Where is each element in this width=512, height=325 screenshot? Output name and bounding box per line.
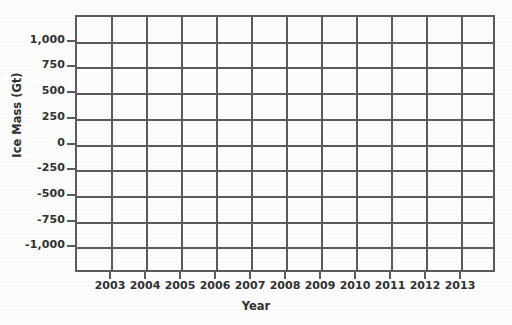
x-axis-tick <box>284 272 286 279</box>
y-axis-tick <box>67 65 75 67</box>
gridline-horizontal <box>77 196 493 198</box>
gridline-vertical <box>111 17 113 270</box>
y-axis-tick <box>67 194 75 196</box>
gridline-vertical <box>391 17 393 270</box>
x-axis-tick <box>179 272 181 279</box>
y-axis-tick <box>67 91 75 93</box>
y-axis-tick <box>67 143 75 145</box>
y-axis-tick <box>67 168 75 170</box>
y-axis-tick <box>67 245 75 247</box>
y-axis-title: Ice Mass (Gt) <box>10 65 24 165</box>
gridline-horizontal <box>77 67 493 69</box>
y-axis-tick-label: -500 <box>3 187 65 200</box>
gridline-vertical <box>146 17 148 270</box>
y-axis-tick <box>67 220 75 222</box>
gridline-horizontal <box>77 145 493 147</box>
gridline-horizontal <box>77 119 493 121</box>
x-axis-tick <box>389 272 391 279</box>
y-axis-tick-label: 1,000 <box>3 33 65 46</box>
y-axis-tick-label: -1,000 <box>3 238 65 251</box>
gridline-horizontal <box>77 42 493 44</box>
gridline-horizontal <box>77 93 493 95</box>
x-axis-tick <box>319 272 321 279</box>
x-axis-tick <box>424 272 426 279</box>
x-axis-title: Year <box>0 299 512 313</box>
y-axis-tick <box>67 117 75 119</box>
gridline-vertical <box>461 17 463 270</box>
gridline-vertical <box>286 17 288 270</box>
x-axis-tick <box>354 272 356 279</box>
gridline-vertical <box>181 17 183 270</box>
gridline-horizontal <box>77 247 493 249</box>
x-axis-tick-label: 2013 <box>438 279 482 292</box>
gridline-vertical <box>251 17 253 270</box>
y-axis-tick-label: -750 <box>3 213 65 226</box>
gridline-vertical <box>216 17 218 270</box>
plot-area <box>75 15 495 272</box>
x-axis-tick <box>109 272 111 279</box>
gridline-horizontal <box>77 170 493 172</box>
x-axis-tick <box>459 272 461 279</box>
ice-mass-chart: 1,0007505002500-250-500-750-1,000 Ice Ma… <box>0 0 512 325</box>
gridline-vertical <box>426 17 428 270</box>
y-axis-tick <box>67 40 75 42</box>
gridline-vertical <box>321 17 323 270</box>
x-axis-tick <box>144 272 146 279</box>
gridline-vertical <box>356 17 358 270</box>
x-axis-tick <box>249 272 251 279</box>
x-axis-tick <box>214 272 216 279</box>
gridline-horizontal <box>77 222 493 224</box>
